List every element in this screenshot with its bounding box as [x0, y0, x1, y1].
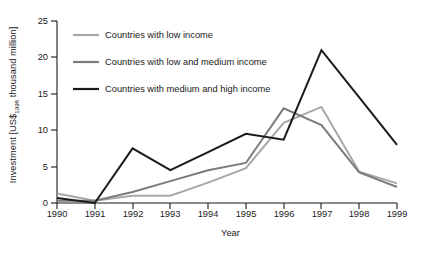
- legend-label-low-income: Countries with low income: [105, 30, 213, 40]
- series-line-countries-with-medium-and-high-income: [57, 50, 397, 203]
- y-tick-marks: [51, 21, 57, 203]
- chart-figure: Investment [US$1998 thousand million] 25…: [0, 0, 435, 256]
- legend-label-low-medium-income: Countries with low and medium income: [105, 57, 267, 67]
- series-line-countries-with-low-and-medium-income: [57, 108, 397, 200]
- legend-swatches: [73, 35, 99, 89]
- x-tick-marks: [57, 203, 397, 209]
- series-line-countries-with-low-income: [57, 107, 397, 201]
- legend-label-medium-high-income: Countries with medium and high income: [105, 84, 270, 94]
- plot-area: [0, 0, 435, 256]
- series-group: [57, 50, 397, 203]
